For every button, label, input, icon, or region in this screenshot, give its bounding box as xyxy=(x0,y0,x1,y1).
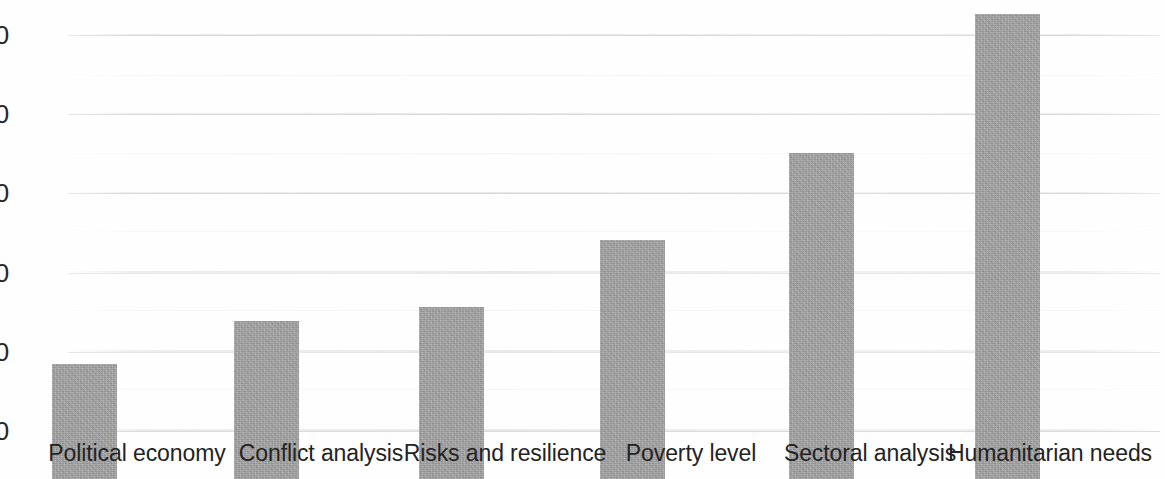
bar-humanitarian-needs xyxy=(975,14,1040,479)
bar-chart: 100 80 60 40 20 0 Political ec xyxy=(0,0,1165,479)
bars-group xyxy=(0,0,1165,479)
bar-sectoral-analysis xyxy=(789,153,854,479)
x-tick-label-humanitarian-needs: Humanitarian needs xyxy=(925,441,1165,465)
